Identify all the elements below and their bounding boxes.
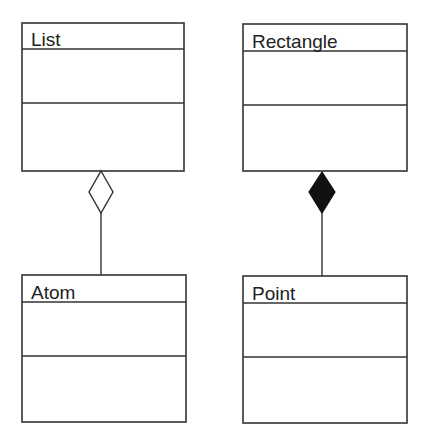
class-point[interactable]: Point bbox=[243, 276, 407, 423]
class-atom[interactable]: Atom bbox=[22, 275, 186, 422]
uml-diagram: List Rectangle Atom Point bbox=[0, 0, 432, 435]
composition-relationship[interactable] bbox=[309, 172, 335, 276]
class-name: List bbox=[31, 29, 61, 50]
class-name: Rectangle bbox=[252, 31, 338, 52]
class-name: Atom bbox=[31, 282, 75, 303]
class-list[interactable]: List bbox=[22, 23, 184, 171]
aggregation-relationship[interactable] bbox=[89, 171, 113, 275]
hollow-diamond-icon bbox=[89, 171, 113, 213]
filled-diamond-icon bbox=[309, 172, 335, 213]
class-name: Point bbox=[252, 283, 296, 304]
class-rectangle[interactable]: Rectangle bbox=[243, 24, 407, 171]
